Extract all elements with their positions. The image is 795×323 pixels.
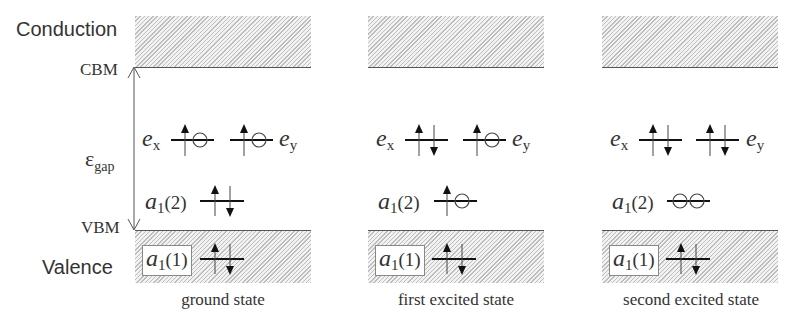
orbital-label-ex-second: ex: [610, 126, 628, 153]
caption-ground-state: ground state: [135, 290, 311, 310]
caption-first-excited-state: first excited state: [368, 290, 544, 310]
orbital-label-a1-1-first: a1(1): [375, 245, 425, 276]
orbital-label-ey-first: ey: [512, 126, 530, 153]
orbital-label-ex-first: ex: [376, 126, 394, 153]
orbital-label-ex-ground: ex: [142, 126, 160, 153]
band-gap-arrow: [128, 67, 140, 230]
orbital-label-a1-1-ground: a1(1): [142, 245, 192, 276]
orbital-label-ey-second: ey: [746, 126, 764, 153]
orbital-label-a1-2-second: a1(2): [612, 189, 654, 216]
orbital-label-ey-ground: ey: [279, 126, 297, 153]
orbital-label-a1-2-first: a1(2): [378, 189, 420, 216]
orbital-label-a1-1-second: a1(1): [609, 245, 659, 276]
orbital-label-a1-2-ground: a1(2): [145, 189, 187, 216]
caption-second-excited-state: second excited state: [596, 290, 786, 310]
